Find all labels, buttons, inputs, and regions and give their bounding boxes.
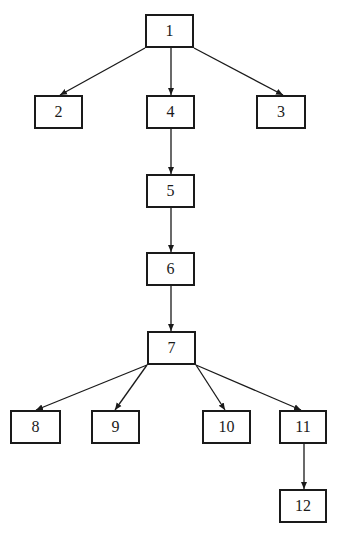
node-label: 6 [167,260,175,278]
node-11: 11 [279,410,327,444]
node-8: 8 [10,410,61,444]
node-7: 7 [147,331,196,365]
node-5: 5 [146,174,195,208]
node-label: 3 [277,103,285,121]
node-12: 12 [279,489,327,523]
node-label: 2 [55,103,63,121]
edge-1-to-3 [194,48,283,95]
node-3: 3 [256,95,306,129]
node-1: 1 [145,14,194,48]
node-6: 6 [146,252,195,286]
node-label: 1 [166,22,174,40]
node-label: 11 [295,418,310,436]
node-label: 10 [219,418,235,436]
node-label: 4 [167,103,175,121]
node-4: 4 [146,95,195,129]
node-label: 9 [112,418,120,436]
node-9: 9 [91,410,140,444]
node-label: 7 [168,339,176,357]
node-10: 10 [202,410,251,444]
edge-7-to-11 [196,365,301,410]
node-label: 5 [167,182,175,200]
node-label: 12 [295,497,311,515]
node-2: 2 [34,95,83,129]
edge-1-to-2 [60,48,145,95]
node-label: 8 [32,418,40,436]
